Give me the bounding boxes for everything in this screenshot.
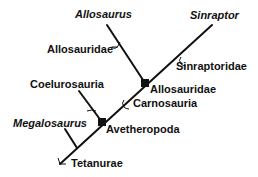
taxon-megalosaurus: Megalosaurus — [13, 117, 87, 129]
coelurosauria-tick — [87, 110, 96, 111]
megalosaurus-branch — [65, 129, 77, 148]
clade-avetheropoda: Avetheropoda — [106, 123, 180, 135]
clade-tetanurae: Tetanurae — [71, 157, 123, 169]
clade-coelurosauria: Coelurosauria — [30, 78, 104, 90]
allosauridae-node — [141, 79, 149, 87]
avetheropoda-node — [98, 118, 106, 126]
clade-sinraptoridae: Sinraptoridae — [176, 60, 247, 72]
taxon-sinraptor: Sinraptor — [190, 9, 239, 21]
clade-allosauridae-stem: Allosauridae — [47, 43, 113, 55]
taxon-allosaurus: Allosaurus — [75, 8, 132, 20]
clade-allosauridae-node: Allosauridae — [150, 83, 216, 95]
clade-carnosauria: Carnosauria — [133, 97, 197, 109]
